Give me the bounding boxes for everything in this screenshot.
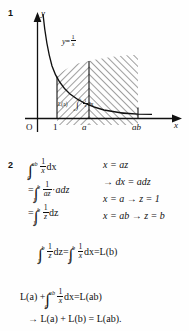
section3-conclusion-line: → L(a) + L(b) = L(ab). <box>28 313 121 324</box>
s2l1-denominator: x <box>40 166 46 175</box>
s2l1-upper-limit: ab <box>31 161 37 167</box>
origin-label: O <box>26 122 33 132</box>
s3l1-lower-limit-2: 1 <box>68 258 71 264</box>
s2l2-upper-limit: b <box>37 184 40 190</box>
s2l2-fraction: 1az <box>43 181 52 198</box>
s3l1-fraction-2: 1x <box>78 243 84 260</box>
substitution-line-3: x = a → z = 1 <box>103 190 165 207</box>
s2l3-fraction: 1z <box>43 204 49 221</box>
figure-page: 1 <box>0 0 189 331</box>
region-label-L-of-a: L(a) <box>58 101 67 107</box>
s3l1-result: L(b) <box>100 246 118 257</box>
s3l2-limits: aba <box>47 294 53 306</box>
s3l1-dz: dz <box>53 246 62 257</box>
shaded-region-a-to-ab <box>85 45 145 130</box>
s2l2-lower-limit: 1 <box>33 197 36 203</box>
s2l3-numerator: 1 <box>43 204 49 212</box>
section2-equation-line-3: =∫b11zdz <box>28 201 69 224</box>
graph-figure: y x O 1 a ab y=1x L(a) ∫aba1xdx <box>0 0 189 150</box>
s3l1-numerator-2: 1 <box>78 243 84 251</box>
s2l3-dz: dz <box>49 207 58 218</box>
s2l3-integral: ∫b1 <box>34 204 42 227</box>
s3l1-denominator-2: x <box>78 251 84 260</box>
s2l1-lower-limit: a <box>27 174 33 180</box>
s2l2-denominator: az <box>43 189 52 198</box>
x-tick-label-ab: ab <box>132 122 141 132</box>
section2-equation-line-1: ∫aba1xdx <box>28 155 69 178</box>
substitution-line-2: → dx = adz <box>103 173 165 190</box>
s3l1-upper-limit-1: b <box>41 245 44 251</box>
s3l1-lower-limit-1: 1 <box>37 258 40 264</box>
s2l2-limits: b1 <box>35 188 38 200</box>
s3l1-integral-2: ∫b1 <box>69 249 77 262</box>
section-2-left-column: ∫aba1xdx =∫b11az·adz =∫b11zdz <box>28 155 69 224</box>
s2l2-integral: ∫b1 <box>34 181 42 204</box>
s3l2-rhs: L(ab) <box>80 291 102 302</box>
s2l3-limits: b1 <box>35 211 38 223</box>
integral-limits: aba <box>75 103 78 110</box>
section2-equation-line-2: =∫b11az·adz <box>28 178 69 201</box>
x-tick-label-a: a <box>82 122 87 132</box>
s2l1-fraction: 1x <box>40 158 46 175</box>
s3l2-lhs: L(a) + <box>20 291 45 302</box>
curve-label-denominator: x <box>71 40 76 47</box>
curve-label-equals: = <box>66 37 71 46</box>
region-integral-symbol: ∫aba <box>76 102 82 109</box>
s3l1-upper-limit-2: b <box>72 245 75 251</box>
s3l1-limits-2: b1 <box>70 249 73 261</box>
s3l2-upper-limit: ab <box>49 290 55 296</box>
s3l1-limits-1: b1 <box>39 249 42 261</box>
s2l1-dx: dx <box>47 161 57 172</box>
s2l3-upper-limit: b <box>37 207 40 213</box>
s3l2-lower-limit: a <box>45 303 51 309</box>
s2l1-limits: aba <box>29 165 35 177</box>
s3l2-dx: dx <box>64 291 74 302</box>
s2l1-integral: ∫aba <box>28 158 39 181</box>
s2l3-denominator: z <box>43 212 49 221</box>
region-label-integral: ∫aba1xdx <box>76 99 94 109</box>
substitution-line-4: x = ab → z = b <box>103 207 165 224</box>
section-2: ∫aba1xdx =∫b11az·adz =∫b11zdz x = az → d… <box>0 155 189 245</box>
integral-lower-limit: a <box>73 109 76 112</box>
s3l1-dx: dx <box>84 246 94 257</box>
section-2-substitution-column: x = az → dx = adz x = a → z = 1 x = ab →… <box>103 156 165 224</box>
y-axis-label: y <box>41 8 45 18</box>
x-tick-label-1: 1 <box>53 122 58 132</box>
s2l2-numerator: 1 <box>43 181 52 189</box>
s2l1-numerator: 1 <box>40 158 46 166</box>
x-axis-label: x <box>174 120 178 130</box>
region-integral-dx: dx <box>88 101 94 107</box>
s2l2-tail: adz <box>55 184 69 195</box>
s3l2-integral: ∫aba <box>45 294 56 307</box>
section3-equation-line-1: ∫b11zdz=∫b11xdx=L(b) <box>38 243 117 262</box>
integral-upper-limit: ab <box>77 99 80 102</box>
s2l3-lower-limit: 1 <box>33 220 36 226</box>
region-integrand-denominator: x <box>83 103 87 108</box>
curve-equation-label: y=1x <box>62 34 76 48</box>
s3l2-fraction: 1x <box>57 288 63 305</box>
section3-equation-line-2: L(a) +∫aba1xdx=L(ab) <box>20 288 102 307</box>
s3l1-integral-1: ∫b1 <box>38 249 46 262</box>
s3l2-denominator: x <box>57 296 63 305</box>
substitution-line-1: x = az <box>103 156 165 173</box>
region-integrand-fraction: 1x <box>83 99 87 109</box>
curve-label-fraction: 1x <box>71 34 76 48</box>
s3l2-numerator: 1 <box>57 288 63 296</box>
